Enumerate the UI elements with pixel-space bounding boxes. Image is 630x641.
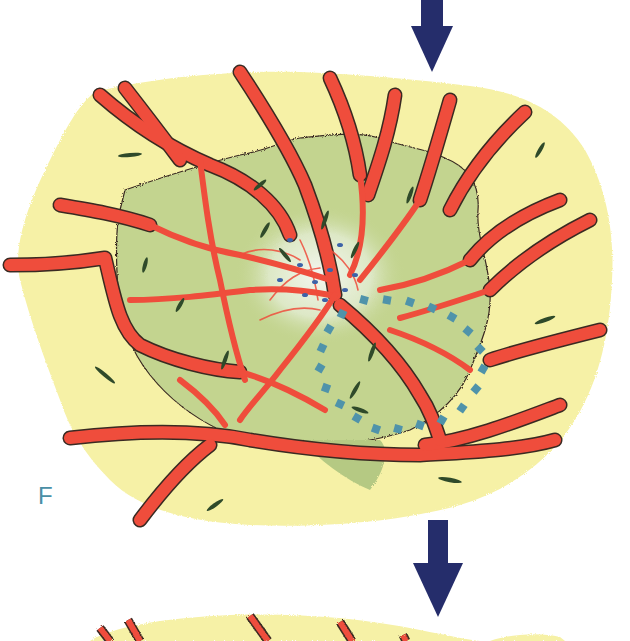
top-arrow-icon xyxy=(411,0,453,72)
next-panel-tissue xyxy=(90,615,565,641)
middle-arrow-icon xyxy=(413,520,463,617)
panel-label: F xyxy=(38,484,53,508)
illustration-canvas xyxy=(0,0,630,641)
